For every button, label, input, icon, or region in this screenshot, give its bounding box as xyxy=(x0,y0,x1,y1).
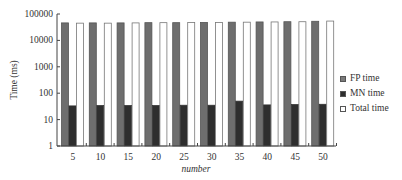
bar-mn-time xyxy=(97,106,104,146)
legend-label: FP time xyxy=(350,71,379,86)
bar-fp-time xyxy=(62,23,69,146)
mn-swatch-icon xyxy=(340,91,346,97)
bar-mn-time xyxy=(319,104,326,146)
legend-label: Total time xyxy=(350,101,389,116)
legend-item-mn: MN time xyxy=(340,86,389,101)
legend-item-fp: FP time xyxy=(340,71,389,86)
x-tick-label: 15 xyxy=(124,152,134,162)
legend-label: MN time xyxy=(350,86,385,101)
bar-fp-time xyxy=(173,23,180,146)
y-tick-label: 1 xyxy=(48,141,53,151)
x-tick-label: 25 xyxy=(179,152,189,162)
y-tick-label: 10000 xyxy=(29,35,53,45)
bar-mn-time xyxy=(180,105,187,146)
bar-total-time xyxy=(216,22,223,146)
bar-mn-time xyxy=(264,105,271,146)
x-tick-label: 5 xyxy=(70,152,75,162)
y-axis-title: Time (ms) xyxy=(9,60,20,100)
y-ticks: 110100100010000100000 xyxy=(25,9,61,151)
bar-fp-time xyxy=(228,22,235,146)
bar-total-time xyxy=(104,23,111,146)
bar-total-time xyxy=(243,22,250,146)
bar-total-time xyxy=(77,23,84,146)
bar-total-time xyxy=(160,23,167,146)
bar-mn-time xyxy=(236,101,243,146)
bar-mn-time xyxy=(208,105,215,146)
y-tick-label: 1000 xyxy=(34,62,53,72)
y-tick-label: 100 xyxy=(39,88,54,98)
legend-item-total: Total time xyxy=(340,101,389,116)
bar-total-time xyxy=(188,22,195,146)
bar-total-time xyxy=(271,22,278,146)
bar-fp-time xyxy=(89,23,96,146)
bar-fp-time xyxy=(117,23,124,146)
bar-fp-time xyxy=(201,22,208,146)
fp-swatch-icon xyxy=(340,76,346,82)
bars-group xyxy=(62,21,334,146)
bar-fp-time xyxy=(145,23,152,146)
bar-fp-time xyxy=(256,22,263,146)
x-tick-label: 35 xyxy=(235,152,245,162)
x-tick-label: 45 xyxy=(290,152,300,162)
bar-mn-time xyxy=(152,106,159,146)
x-axis-title: number xyxy=(181,164,210,174)
x-tick-label: 10 xyxy=(96,152,106,162)
bar-mn-time xyxy=(69,106,76,146)
bar-total-time xyxy=(327,21,334,146)
legend: FP time MN time Total time xyxy=(340,71,389,116)
y-tick-label: 10 xyxy=(44,115,54,125)
bar-mn-time xyxy=(125,106,132,146)
x-tick-label: 30 xyxy=(207,152,217,162)
x-tick-label: 20 xyxy=(151,152,161,162)
bar-mn-time xyxy=(291,105,298,146)
bar-fp-time xyxy=(312,21,319,146)
bar-fp-time xyxy=(284,22,291,146)
y-tick-label: 100000 xyxy=(25,9,54,19)
x-tick-label: 50 xyxy=(318,152,328,162)
bar-total-time xyxy=(299,22,306,146)
x-tick-label: 40 xyxy=(263,152,273,162)
bar-total-time xyxy=(132,23,139,146)
total-swatch-icon xyxy=(340,106,346,112)
